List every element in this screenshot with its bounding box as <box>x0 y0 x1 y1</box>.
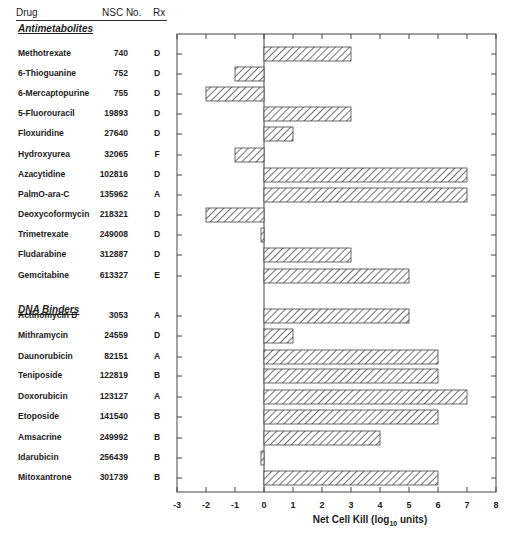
bar <box>235 148 264 162</box>
bar <box>264 168 467 182</box>
bar <box>264 350 438 364</box>
x-tick-label: 4 <box>377 500 382 510</box>
bar-chart: -3-2-1012345678 <box>0 0 511 543</box>
x-tick-label: -1 <box>231 500 239 510</box>
bar <box>264 431 380 445</box>
bar <box>235 67 264 81</box>
x-tick-label: 5 <box>406 500 411 510</box>
bar <box>264 269 409 283</box>
bar <box>264 410 438 424</box>
bar <box>264 329 293 343</box>
bar <box>264 369 438 383</box>
bar <box>264 390 467 404</box>
x-tick-label: 0 <box>261 500 266 510</box>
bar <box>264 47 351 61</box>
bar <box>264 471 438 485</box>
bar <box>206 208 264 222</box>
x-tick-label: 6 <box>435 500 440 510</box>
x-tick-label: -2 <box>202 500 210 510</box>
bar <box>264 127 293 141</box>
x-tick-label: 2 <box>319 500 324 510</box>
x-tick-label: 8 <box>493 500 498 510</box>
bar <box>264 107 351 121</box>
x-axis-label: Net Cell Kill (log10 units) <box>270 514 470 527</box>
bar <box>264 309 409 323</box>
x-tick-label: 1 <box>290 500 295 510</box>
x-tick-label: 7 <box>464 500 469 510</box>
bar <box>261 451 264 465</box>
bar <box>264 248 351 262</box>
bar <box>206 87 264 101</box>
bar <box>264 188 467 202</box>
bar <box>261 228 264 242</box>
x-tick-label: 3 <box>348 500 353 510</box>
x-tick-label: -3 <box>173 500 181 510</box>
